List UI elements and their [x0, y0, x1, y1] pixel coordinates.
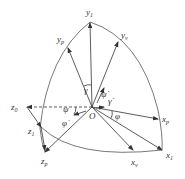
label-phi: φ — [115, 111, 120, 121]
label-z0: z0 — [10, 102, 18, 113]
label-gamma-dot: γ̇ — [108, 96, 115, 106]
coordinate-frame-diagram: y1 yp yv z0 z1 zp xp x1 xv O γ ψ̇ γ̇ φ ψ… — [0, 0, 185, 179]
label-y1: y1 — [85, 7, 93, 18]
arc-bottom — [41, 127, 162, 152]
label-psi: ψ — [63, 104, 69, 114]
psi-arc — [74, 107, 76, 114]
label-yp: yp — [56, 34, 64, 45]
label-yv: yv — [120, 30, 128, 41]
label-xv: xv — [130, 157, 138, 168]
label-z1: z1 — [27, 126, 35, 137]
axis-z1-link — [27, 107, 41, 127]
label-xp: xp — [161, 114, 169, 125]
label-gamma: γ — [84, 85, 88, 95]
axis-yp — [68, 48, 92, 107]
label-zp: zp — [40, 156, 48, 167]
phi-arc — [111, 111, 112, 118]
axis-y1 — [90, 23, 92, 107]
label-origin: O — [89, 111, 96, 121]
label-phi-dot: φ̇ — [62, 118, 70, 128]
gamma-dot-arrow — [96, 107, 104, 108]
label-x1: x1 — [165, 150, 173, 161]
